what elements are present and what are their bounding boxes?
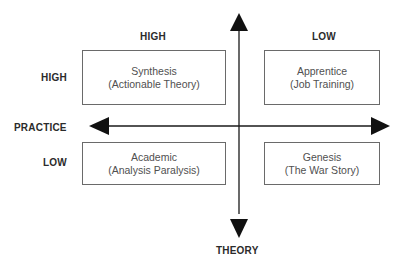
axes-graphic (0, 0, 408, 266)
axis-label-theory: THEORY (216, 245, 259, 256)
quadrant-apprentice: Apprentice (Job Training) (264, 50, 380, 105)
column-header-high: HIGH (140, 31, 166, 42)
quadrant-synthesis: Synthesis (Actionable Theory) (82, 50, 226, 105)
arrow-left-icon (89, 117, 109, 135)
quadrant-genesis: Genesis (The War Story) (264, 142, 380, 185)
quadrant-title: Genesis (303, 151, 342, 164)
arrow-right-icon (371, 117, 390, 135)
arrow-up-icon (230, 13, 248, 31)
quadrant-subtitle: (The War Story) (285, 164, 359, 177)
quadrant-subtitle: (Analysis Paralysis) (108, 164, 200, 177)
quadrant-title: Apprentice (297, 65, 347, 78)
row-header-high: HIGH (41, 72, 67, 83)
arrow-down-icon (230, 219, 248, 238)
quadrant-subtitle: (Actionable Theory) (108, 78, 199, 91)
quadrant-title: Synthesis (131, 65, 177, 78)
quadrant-title: Academic (131, 151, 177, 164)
quadrant-subtitle: (Job Training) (290, 78, 354, 91)
row-header-low: LOW (43, 157, 67, 168)
axis-label-practice: PRACTICE (14, 122, 67, 133)
column-header-low: LOW (312, 31, 336, 42)
quadrant-academic: Academic (Analysis Paralysis) (82, 142, 226, 185)
